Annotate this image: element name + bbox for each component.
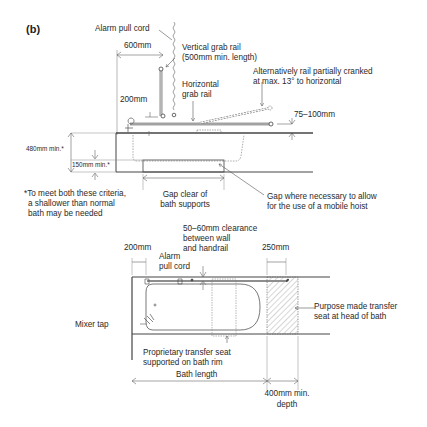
- bath-length-label: Bath length: [176, 370, 217, 380]
- vertical-rail-label-1: Vertical grab rail: [182, 43, 241, 53]
- plan-alarm-label-1: Alarm: [159, 252, 180, 262]
- figure-label: (b): [26, 24, 40, 34]
- bath-grab-rail-diagram: (b) Alarm pull cord 600mm Vertical grab …: [0, 0, 427, 427]
- proprietary-seat-label-2: supported on bath rim: [143, 358, 223, 368]
- dim-600-label: 600mm: [124, 41, 151, 51]
- dim-200-plan-label: 200mm: [124, 243, 151, 253]
- mixer-tap-label: Mixer tap: [75, 320, 109, 330]
- alarm-cord-elevation: [173, 22, 175, 110]
- footnote-line-1: *To meet both these criteria,: [24, 189, 126, 199]
- footnote-line-2: a shallower than normal: [28, 199, 115, 209]
- clearance-label-1: 50–60mm clearance: [183, 224, 257, 234]
- gap-hoist-label-1: Gap where necessary to allow: [267, 192, 377, 202]
- proprietary-seat-label-1: Proprietary transfer seat: [143, 348, 231, 358]
- clearance-label-3: and handrail: [183, 244, 228, 254]
- alarm-pull-cord-label: Alarm pull cord: [95, 24, 150, 34]
- vertical-rail-label-2: (500mm min. length): [182, 53, 257, 63]
- dim-75-100-label: 75–100mm: [294, 110, 335, 120]
- dim-400-label-1: 400mm min.: [252, 389, 322, 399]
- plan-alarm-label-2: pull cord: [159, 262, 190, 272]
- dim-200-elevation-label: 200mm: [120, 95, 147, 105]
- alt-rail-label-2: at max. 13° to horizontal: [253, 77, 341, 87]
- dim-400-label-2: depth: [252, 400, 322, 410]
- dim-250-label: 250mm: [262, 243, 289, 253]
- plan-view: [132, 258, 330, 390]
- horizontal-rail-label-2: grab rail: [182, 90, 212, 100]
- horizontal-rail-label-1: Horizontal: [182, 80, 219, 90]
- alt-rail-label-1: Alternatively rail partially cranked: [253, 67, 373, 77]
- transfer-seat-head-label-2: seat at head of bath: [314, 312, 386, 322]
- transfer-seat-head-label-1: Purpose made transfer: [314, 302, 397, 312]
- gap-supports-label-2: bath supports: [150, 200, 220, 210]
- clearance-label-2: between wall: [183, 234, 230, 244]
- footnote-line-3: bath may be needed: [28, 209, 103, 219]
- dim-150-label: 150mm min.*: [72, 161, 110, 169]
- gap-supports-label-1: Gap clear of: [150, 190, 220, 200]
- dim-480-label: 480mm min.*: [26, 145, 64, 153]
- gap-hoist-label-2: for the use of a mobile hoist: [267, 202, 368, 212]
